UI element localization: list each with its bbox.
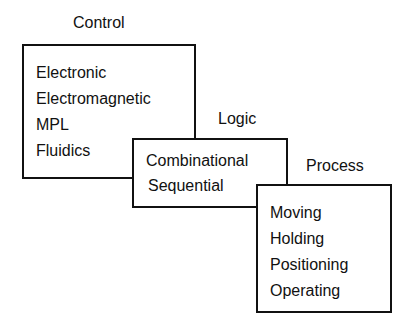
control-item: Fluidics	[36, 142, 90, 160]
process-title: Process	[306, 157, 364, 175]
process-box: Moving Holding Positioning Operating	[256, 184, 392, 313]
process-item: Holding	[270, 230, 324, 248]
control-title: Control	[73, 14, 125, 32]
control-item: MPL	[36, 116, 69, 134]
logic-item: Sequential	[148, 177, 224, 195]
logic-title: Logic	[218, 110, 256, 128]
process-item: Moving	[270, 204, 322, 222]
control-item: Electromagnetic	[36, 90, 151, 108]
process-item: Operating	[270, 282, 340, 300]
logic-item: Combinational	[146, 152, 248, 170]
control-item: Electronic	[36, 64, 106, 82]
process-item: Positioning	[270, 256, 348, 274]
